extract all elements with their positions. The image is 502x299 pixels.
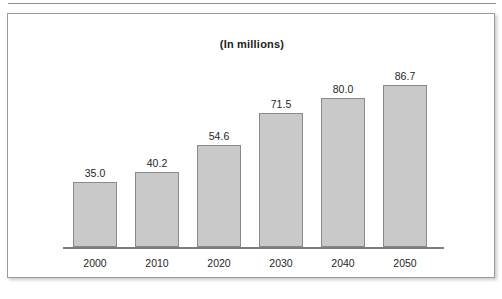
bar bbox=[197, 145, 241, 247]
bar bbox=[321, 98, 365, 247]
x-axis-line bbox=[63, 247, 444, 249]
x-axis-tick-label: 2010 bbox=[126, 257, 188, 269]
x-axis-tick-label: 2000 bbox=[64, 257, 126, 269]
bar-value-label: 35.0 bbox=[64, 167, 126, 179]
x-axis-tick-label: 2020 bbox=[188, 257, 250, 269]
x-axis-tick-label: 2030 bbox=[250, 257, 312, 269]
page-top-rule bbox=[8, 3, 496, 4]
x-axis-tick-label: 2050 bbox=[374, 257, 436, 269]
plot-area: 35.0200040.2201054.6202071.5203080.02040… bbox=[8, 14, 496, 279]
chart-figure-frame: (In millions) 35.0200040.2201054.6202071… bbox=[7, 13, 495, 278]
x-axis-tick-label: 2040 bbox=[312, 257, 374, 269]
bar-value-label: 54.6 bbox=[188, 130, 250, 142]
bar bbox=[135, 172, 179, 247]
bar-value-label: 40.2 bbox=[126, 157, 188, 169]
bar bbox=[383, 85, 427, 247]
bar bbox=[73, 182, 117, 247]
bar-value-label: 86.7 bbox=[374, 70, 436, 82]
bar-value-label: 71.5 bbox=[250, 98, 312, 110]
bar bbox=[259, 113, 303, 247]
bar-value-label: 80.0 bbox=[312, 83, 374, 95]
